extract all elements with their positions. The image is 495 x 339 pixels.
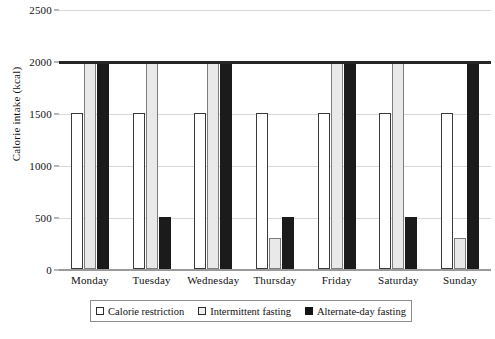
bar-thursday-series-0	[256, 113, 268, 269]
bar-friday-series-0	[318, 113, 330, 269]
legend-swatch-icon	[198, 307, 206, 315]
bar-monday-series-0	[71, 113, 83, 269]
bar-wednesday-series-0	[194, 113, 206, 269]
bar-saturday-series-2	[405, 217, 417, 269]
y-tick-label: 2500	[0, 4, 52, 16]
y-tick-label: 500	[0, 212, 52, 224]
x-tick-label-friday: Friday	[322, 274, 352, 286]
legend: Calorie restrictionIntermittent fastingA…	[90, 300, 412, 322]
bar-wednesday-series-2	[220, 61, 232, 269]
x-tick-label-monday: Monday	[71, 274, 109, 286]
legend-item-1[interactable]: Intermittent fasting	[198, 306, 291, 317]
bar-chart: Calorie intake (kcal) 050010001500200025…	[0, 0, 495, 339]
x-tick-label-saturday: Saturday	[378, 274, 419, 286]
x-tick-label-sunday: Sunday	[443, 274, 477, 286]
x-tick-label-thursday: Thursday	[253, 274, 296, 286]
bar-tuesday-series-2	[159, 217, 171, 269]
bar-sunday-series-2	[467, 61, 479, 269]
bar-tuesday-series-0	[133, 113, 145, 269]
bar-monday-series-2	[97, 61, 109, 269]
y-tick-label: 2000	[0, 56, 52, 68]
x-tick-label-wednesday: Wednesday	[187, 274, 239, 286]
bar-saturday-series-0	[379, 113, 391, 269]
cap-rule-2000	[59, 61, 491, 64]
y-tick-label: 1000	[0, 160, 52, 172]
bar-saturday-series-1	[392, 61, 404, 269]
y-tick-label: 0	[0, 264, 52, 276]
bar-friday-series-2	[344, 61, 356, 269]
bar-wednesday-series-1	[207, 61, 219, 269]
legend-label: Alternate-day fasting	[317, 306, 406, 317]
bar-sunday-series-0	[441, 113, 453, 269]
gridline	[59, 270, 491, 271]
legend-label: Calorie restriction	[108, 306, 184, 317]
bar-friday-series-1	[331, 61, 343, 269]
plot-area	[59, 10, 491, 270]
bar-thursday-series-1	[269, 238, 281, 269]
bars-layer	[59, 10, 491, 270]
legend-swatch-icon	[96, 307, 104, 315]
bar-thursday-series-2	[282, 217, 294, 269]
legend-swatch-icon	[305, 307, 313, 315]
legend-item-0[interactable]: Calorie restriction	[96, 306, 184, 317]
legend-label: Intermittent fasting	[210, 306, 291, 317]
x-tick-label-tuesday: Tuesday	[132, 274, 170, 286]
bar-sunday-series-1	[454, 238, 466, 269]
bar-monday-series-1	[84, 61, 96, 269]
legend-item-2[interactable]: Alternate-day fasting	[305, 306, 406, 317]
bar-tuesday-series-1	[146, 61, 158, 269]
y-tick-label: 1500	[0, 108, 52, 120]
